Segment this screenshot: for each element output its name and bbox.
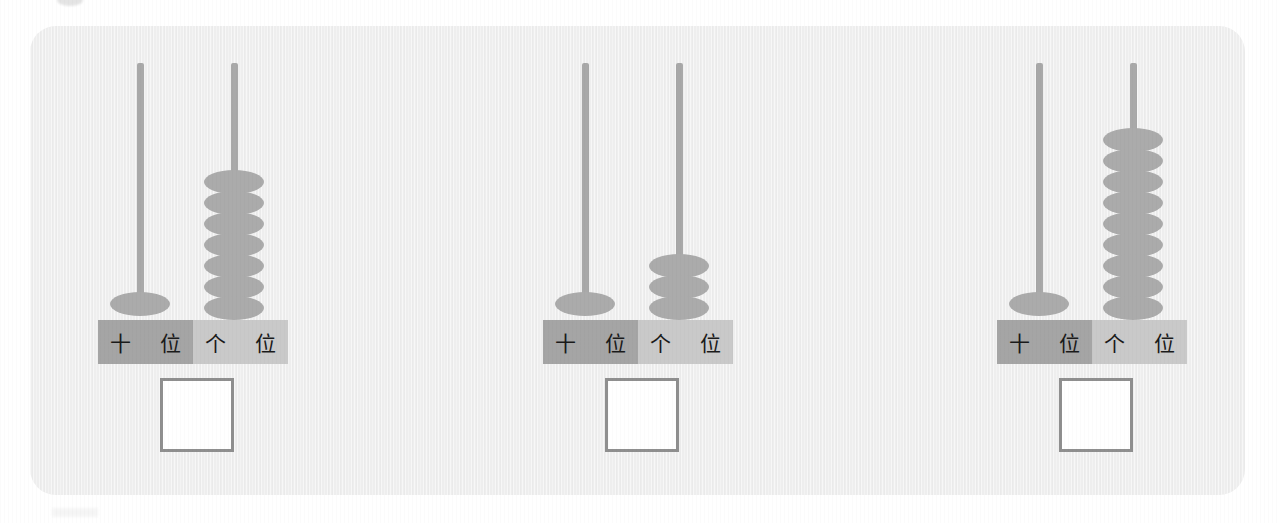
- bead[interactable]: [555, 292, 615, 316]
- scan-artifact-top: [57, 0, 83, 6]
- tens-place-label: 十 位: [98, 320, 193, 364]
- tens-rod: [137, 63, 144, 313]
- answer-box[interactable]: [160, 378, 234, 452]
- place-value-bar: 十 位 个 位: [543, 320, 733, 364]
- abacus-group-1: 十 位 个 位: [98, 0, 328, 469]
- answer-box[interactable]: [1059, 378, 1133, 452]
- abacus-group-2: 十 位 个 位: [543, 0, 773, 469]
- tens-place-label: 十 位: [997, 320, 1092, 364]
- ones-place-label: 个 位: [193, 320, 288, 364]
- worksheet-page: 十 位 个 位 十 位 个 位: [0, 0, 1277, 523]
- bead[interactable]: [649, 296, 709, 320]
- answer-box[interactable]: [605, 378, 679, 452]
- place-value-bar: 十 位 个 位: [997, 320, 1187, 364]
- tens-rod: [1036, 63, 1043, 313]
- ones-place-label: 个 位: [1092, 320, 1187, 364]
- ones-place-label: 个 位: [638, 320, 733, 364]
- abacus-group-3: 十 位 个 位: [997, 0, 1227, 469]
- bead[interactable]: [1009, 292, 1069, 316]
- scan-artifact-bottom: [52, 508, 98, 517]
- bead[interactable]: [110, 292, 170, 316]
- bead[interactable]: [1103, 296, 1163, 320]
- tens-rod: [582, 63, 589, 313]
- tens-place-label: 十 位: [543, 320, 638, 364]
- bead[interactable]: [204, 296, 264, 320]
- place-value-bar: 十 位 个 位: [98, 320, 288, 364]
